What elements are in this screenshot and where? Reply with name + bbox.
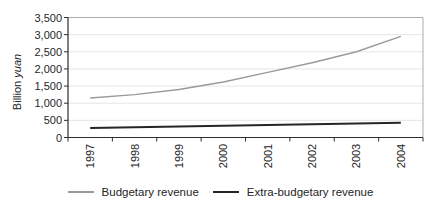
- legend-label-budgetary: Budgetary revenue: [102, 186, 199, 199]
- y-axis-tick-label: 1,000: [6, 97, 62, 109]
- extra-budgetary-revenue-line: [90, 123, 401, 128]
- line-chart-canvas: [0, 0, 441, 208]
- budgetary-line-icon: [68, 191, 94, 192]
- x-axis-tick-label: 1999: [173, 144, 184, 168]
- y-axis-tick-label: 2,500: [6, 46, 62, 58]
- x-axis-tick-label: 2001: [262, 144, 273, 168]
- y-axis-tick-label: 500: [6, 114, 62, 126]
- y-axis-tick-label: 1,500: [6, 80, 62, 92]
- legend: Budgetary revenue Extra-budgetary revenu…: [0, 185, 441, 199]
- x-axis-tick-label: 2003: [351, 144, 362, 168]
- chart-figure: Billion yuan 05001,0001,5002,0002,5003,0…: [0, 0, 441, 208]
- y-axis-tick-label: 0: [6, 132, 62, 144]
- x-axis-tick-label: 1997: [85, 144, 96, 168]
- y-axis-tick-label: 2,000: [6, 63, 62, 75]
- x-axis-tick-label: 2004: [395, 144, 406, 168]
- legend-item-extra-budgetary: Extra-budgetary revenue: [213, 186, 374, 199]
- x-axis-tick-label: 1998: [129, 144, 140, 168]
- legend-item-budgetary: Budgetary revenue: [68, 186, 199, 199]
- x-axis-tick-label: 2002: [307, 144, 318, 168]
- legend-label-extra-budgetary: Extra-budgetary revenue: [247, 186, 374, 199]
- y-axis-tick-label: 3,000: [6, 29, 62, 41]
- budgetary-revenue-line: [90, 36, 401, 98]
- extra-budgetary-line-icon: [213, 191, 239, 193]
- y-axis-tick-label: 3,500: [6, 12, 62, 24]
- x-axis-tick-label: 2000: [218, 144, 229, 168]
